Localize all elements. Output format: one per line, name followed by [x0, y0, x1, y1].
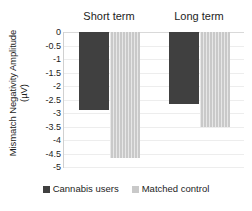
y-axis-tick-label: 0	[56, 28, 61, 37]
legend-label: Cannabis users	[53, 184, 119, 194]
y-axis-tick-label: -2.5	[45, 95, 61, 104]
bar-long-term-cannabis-users	[169, 32, 199, 104]
y-axis-tick-label: -4	[53, 136, 61, 145]
legend-label: Matched control	[142, 184, 210, 194]
y-axis-title-line1: Mismatch Negativity Amplitude	[7, 29, 18, 155]
bar-long-term-matched-control	[200, 32, 230, 127]
y-axis-title: Mismatch Negativity Amplitude (µV)	[0, 0, 36, 185]
legend-swatch-icon	[132, 186, 139, 193]
bar-short-term-cannabis-users	[79, 32, 109, 110]
y-axis-title-line2: (µV)	[18, 29, 29, 155]
legend-item[interactable]: Cannabis users	[43, 184, 119, 194]
y-axis-tick-label: -5	[53, 163, 61, 172]
y-axis-tick-label: -2	[53, 82, 61, 91]
bar-chart-figure: Mismatch Negativity Amplitude (µV) 0-0.5…	[0, 0, 252, 211]
legend-swatch-icon	[43, 186, 50, 193]
gridline	[64, 167, 244, 168]
y-axis-tick-label: -1.5	[45, 68, 61, 77]
legend-item[interactable]: Matched control	[132, 184, 210, 194]
chart-legend: Cannabis usersMatched control	[0, 184, 252, 194]
bar-short-term-matched-control	[110, 32, 140, 158]
y-axis-tick-labels: 0-0.5-1-1.5-2-2.5-3-3.5-4-4.5-5	[33, 26, 62, 168]
category-label: Long term	[174, 10, 224, 22]
y-axis-tick-label: -1	[53, 55, 61, 64]
plot-area: Short termLong term	[64, 32, 244, 167]
y-axis-tick-label: -3.5	[45, 122, 61, 131]
y-axis-tick-label: -0.5	[45, 41, 61, 50]
y-axis-tick-label: -4.5	[45, 149, 61, 158]
bars-group	[64, 32, 244, 167]
y-axis-tick-label: -3	[53, 109, 61, 118]
category-label: Short term	[83, 10, 134, 22]
